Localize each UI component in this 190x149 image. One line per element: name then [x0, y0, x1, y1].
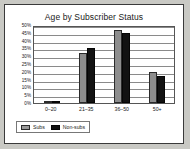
y-axis-tick-label: 20%: [22, 71, 31, 76]
y-axis-tick-label: 0%: [24, 102, 31, 107]
bar-subs: [149, 72, 157, 103]
x-axis-tick-label: 0–20: [33, 106, 69, 112]
y-axis-tick-label: 15%: [22, 78, 31, 83]
bar-non-subs: [52, 101, 60, 103]
y-axis-tick-label: 25%: [22, 63, 31, 68]
y-axis-tick-label: 30%: [22, 55, 31, 60]
legend-entry: Subs: [21, 124, 45, 130]
y-axis: 0%5%10%15%20%25%30%35%40%45%50%: [7, 26, 32, 104]
legend-label: Non-subs: [63, 124, 85, 130]
legend-swatch-non-subs: [51, 125, 60, 130]
bar-non-subs: [87, 48, 95, 103]
bar-subs: [114, 30, 122, 103]
bar-non-subs: [157, 76, 165, 103]
bar-group: [44, 27, 60, 103]
bar-subs: [44, 101, 52, 103]
y-axis-tick-label: 10%: [22, 86, 31, 91]
bar-group: [149, 27, 165, 103]
y-axis-tick-label: 5%: [24, 94, 31, 99]
x-axis: 0–2021–3536–5050+: [33, 106, 175, 116]
chart-title: Age by Subscriber Status: [5, 12, 183, 22]
legend-entry: Non-subs: [51, 124, 85, 130]
bar-subs: [79, 53, 87, 103]
bar-group: [79, 27, 95, 103]
chart-legend: SubsNon-subs: [16, 121, 90, 133]
x-axis-tick-label: 21–35: [69, 106, 105, 112]
legend-swatch-subs: [21, 125, 30, 130]
plot-area: [33, 26, 175, 104]
bar-non-subs: [122, 33, 130, 103]
y-axis-tick-label: 35%: [22, 47, 31, 52]
x-axis-tick-label: 36–50: [104, 106, 140, 112]
chart-frame: Age by Subscriber Status 0%5%10%15%20%25…: [4, 4, 184, 144]
bars-layer: [34, 27, 174, 103]
y-axis-tick-label: 50%: [22, 24, 31, 29]
legend-label: Subs: [33, 124, 45, 130]
y-axis-tick-label: 40%: [22, 39, 31, 44]
y-axis-tick-label: 45%: [22, 32, 31, 37]
bar-group: [114, 27, 130, 103]
x-axis-tick-label: 50+: [140, 106, 176, 112]
